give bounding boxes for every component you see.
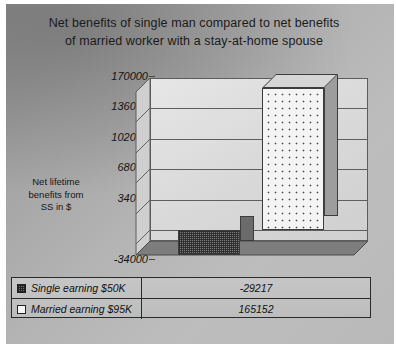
plot-floor bbox=[136, 241, 368, 255]
y-axis-title-line-1: Net lifetime bbox=[6, 176, 106, 189]
chart-title-line-2: of married worker with a stay-at-home sp… bbox=[14, 32, 374, 50]
table-cell-series-name: Married earning $95K bbox=[12, 299, 142, 319]
chart-screenshot: Net benefits of single man compared to n… bbox=[0, 0, 396, 346]
plot-area bbox=[136, 78, 368, 260]
legend-swatch-icon bbox=[17, 305, 26, 314]
table-cell-value-single: -29217 bbox=[142, 278, 370, 298]
bar-front-face bbox=[178, 230, 240, 255]
table-row[interactable]: Married earning $95K 165152 bbox=[12, 298, 370, 319]
series-label-single: Single earning $50K bbox=[31, 282, 126, 294]
chart-title-line-1: Net benefits of single man compared to n… bbox=[49, 16, 340, 30]
bar-side-face bbox=[240, 216, 254, 241]
bar-married-earning-95k[interactable] bbox=[262, 88, 324, 230]
data-table: Single earning $50K -29217 Married earni… bbox=[11, 277, 371, 318]
y-axis-title-line-3: SS in $ bbox=[6, 201, 106, 214]
y-tick-mark bbox=[149, 76, 155, 77]
legend-swatch-icon bbox=[17, 284, 26, 293]
table-cell-value-married: 165152 bbox=[142, 299, 370, 319]
table-row[interactable]: Single earning $50K -29217 bbox=[12, 278, 370, 298]
series-label-married: Married earning $95K bbox=[31, 303, 132, 315]
bar-single-earning-50k[interactable] bbox=[178, 230, 240, 255]
y-axis-title: Net lifetime benefits from SS in $ bbox=[6, 176, 106, 214]
plot-left-wall bbox=[136, 78, 150, 255]
bar-side-face bbox=[324, 74, 338, 216]
bar-front-face bbox=[262, 88, 324, 230]
y-axis-title-line-2: benefits from bbox=[6, 189, 106, 202]
table-cell-series-name: Single earning $50K bbox=[12, 278, 142, 298]
chart-title: Net benefits of single man compared to n… bbox=[14, 14, 374, 50]
